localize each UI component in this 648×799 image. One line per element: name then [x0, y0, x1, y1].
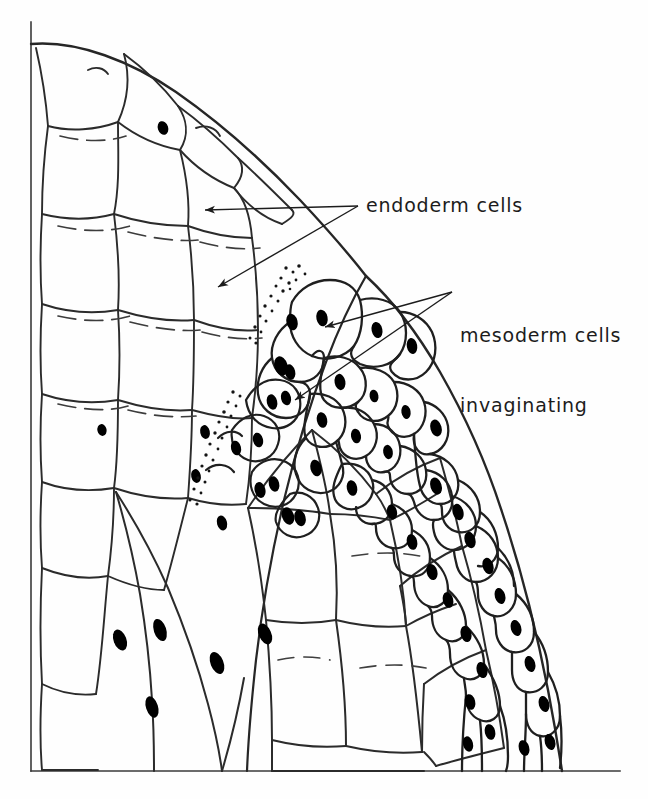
label-endoderm-cells: endoderm cells [366, 194, 523, 217]
arrow-endoderm-lower [218, 206, 358, 287]
label-mesoderm-line-1: mesoderm cells [460, 324, 621, 347]
label-mesoderm-line-2: invaginating [460, 394, 621, 417]
arrow-mesoderm-lower [295, 292, 452, 400]
label-mesoderm-cells: mesoderm cells invaginating [460, 278, 621, 463]
arrow-endoderm-upper [205, 206, 358, 210]
endoderm-cell-sketch-breaks [58, 136, 262, 417]
embryo-diagram-figure: endoderm cells mesoderm cells invaginati… [0, 0, 648, 799]
arrow-mesoderm-upper [325, 292, 452, 327]
leader-arrows [205, 206, 452, 400]
